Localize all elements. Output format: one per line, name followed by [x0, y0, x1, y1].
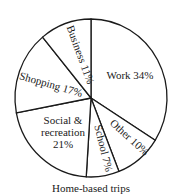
label-social-line1: Social &	[44, 114, 83, 126]
label-work: Work 34%	[106, 69, 153, 81]
label-social-line3: 21%	[53, 138, 73, 150]
pie-chart: Work 34% Other 10% School 7% Social & re…	[0, 0, 181, 196]
label-social-line2: recreation	[41, 126, 85, 138]
chart-caption: Home-based trips	[52, 182, 130, 194]
